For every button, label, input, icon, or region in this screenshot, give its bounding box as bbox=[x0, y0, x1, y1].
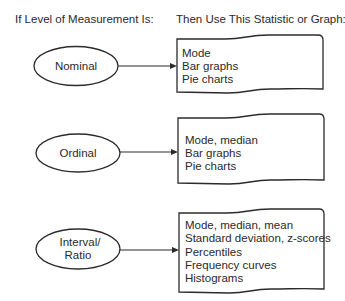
header-level-of-measurement: If Level of Measurement Is: bbox=[15, 13, 154, 25]
level-label-interval-ratio-line1: Interval/ bbox=[60, 236, 102, 248]
level-label-ordinal: Ordinal bbox=[59, 147, 96, 159]
statistic-item: Percentiles bbox=[185, 246, 242, 258]
statistic-item: Bar graphs bbox=[182, 60, 239, 72]
row-nominal: Nominal Mode Bar graphs Pie charts bbox=[34, 35, 323, 93]
statistic-item: Pie charts bbox=[182, 73, 233, 85]
statistic-item: Mode bbox=[182, 47, 211, 59]
arrowhead-icon bbox=[171, 149, 178, 155]
statistic-item: Histograms bbox=[185, 272, 243, 284]
statistic-item: Standard deviation, z-scores bbox=[185, 232, 331, 244]
arrowhead-icon bbox=[172, 247, 179, 253]
measurement-level-diagram: If Level of Measurement Is: Then Use Thi… bbox=[0, 0, 345, 301]
arrowhead-icon bbox=[170, 63, 177, 69]
statistic-item: Pie charts bbox=[185, 160, 236, 172]
row-interval-ratio: Interval/ Ratio Mode, median, mean Stand… bbox=[36, 209, 331, 293]
row-ordinal: Ordinal Mode, median Bar graphs Pie char… bbox=[36, 114, 324, 184]
header-statistic-or-graph: Then Use This Statistic or Graph: bbox=[176, 13, 345, 25]
statistic-item: Frequency curves bbox=[185, 259, 277, 271]
level-label-nominal: Nominal bbox=[55, 60, 97, 72]
statistic-item: Mode, median, mean bbox=[185, 219, 293, 231]
statistic-item: Mode, median bbox=[185, 134, 258, 146]
level-label-interval-ratio-line2: Ratio bbox=[65, 249, 92, 261]
statistic-item: Bar graphs bbox=[185, 147, 242, 159]
